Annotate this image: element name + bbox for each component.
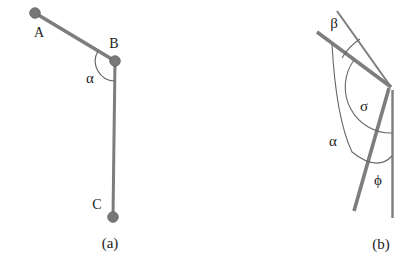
joint-a-dot — [30, 8, 41, 19]
angle-label-sigma: σ — [360, 99, 368, 114]
angle-label-phi: ϕ — [374, 173, 382, 188]
point-label-b: B — [109, 37, 118, 51]
angle-label-alpha-a: α — [86, 71, 94, 86]
panel-b-caption: (b) — [372, 237, 390, 252]
joint-c-dot — [108, 212, 119, 223]
point-label-c: C — [92, 198, 101, 212]
angle-label-alpha-b: α — [329, 134, 337, 149]
thick-upper-rod-line — [317, 32, 391, 87]
figure-canvas: A B C α (a) β σ α ϕ (b) — [0, 0, 417, 270]
angle-label-beta: β — [330, 16, 338, 31]
rod-diagram-svg — [0, 0, 417, 270]
thin-upper-rod-line — [337, 11, 391, 87]
rod-bc-line — [113, 61, 115, 217]
rod-ab-line — [35, 13, 115, 61]
panel-a-caption: (a) — [102, 236, 119, 251]
joint-b-dot — [110, 56, 121, 67]
point-label-a: A — [34, 26, 44, 40]
